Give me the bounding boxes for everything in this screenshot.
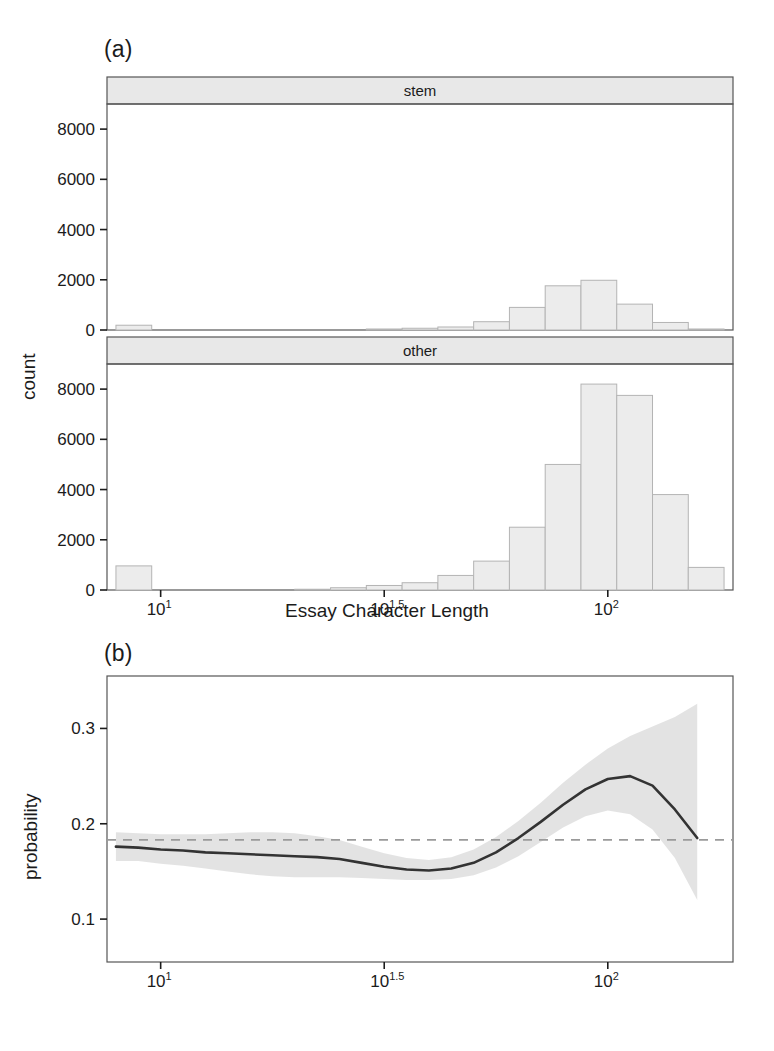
y-tick-label: 0 xyxy=(86,581,95,600)
y-tick-label: 8000 xyxy=(57,120,95,139)
histogram-bar xyxy=(474,322,510,330)
histogram-bar xyxy=(581,280,617,330)
histogram-bar xyxy=(366,329,402,330)
histogram-bar xyxy=(438,327,474,330)
histogram-bar xyxy=(116,566,152,590)
y-tick-label: 0.3 xyxy=(71,719,95,738)
x-tick-label: 102 xyxy=(594,598,619,619)
histogram-bar xyxy=(581,384,617,590)
histogram-bar xyxy=(474,561,510,590)
histogram-bar xyxy=(116,325,152,330)
figure-container: (a) (b) Essay Character Length count pro… xyxy=(0,0,774,1051)
y-tick-label: 0 xyxy=(86,321,95,340)
histogram-bar xyxy=(545,464,581,590)
histogram-bar xyxy=(617,395,653,590)
x-tick-label: 101 xyxy=(147,598,172,619)
plot-canvas: stem02000400060008000other02000400060008… xyxy=(0,0,774,1051)
x-tick-label: 102 xyxy=(594,970,619,991)
y-tick-label: 0.1 xyxy=(71,910,95,929)
y-tick-label: 2000 xyxy=(57,531,95,550)
histogram-bar xyxy=(509,307,545,330)
y-tick-label: 4000 xyxy=(57,481,95,500)
histogram-bar xyxy=(545,286,581,330)
histogram-bar xyxy=(509,527,545,590)
histogram-bar xyxy=(438,575,474,590)
histogram-bar xyxy=(653,495,689,590)
histogram-bar xyxy=(402,583,438,590)
histogram-bar xyxy=(617,304,653,330)
facet-strip-label: other xyxy=(403,342,437,359)
histogram-bar xyxy=(402,328,438,330)
y-tick-label: 6000 xyxy=(57,430,95,449)
facet-strip-label: stem xyxy=(404,82,437,99)
y-tick-label: 0.2 xyxy=(71,815,95,834)
panel-frame-stem xyxy=(107,104,733,330)
histogram-bar xyxy=(688,567,724,590)
histogram-bar xyxy=(295,589,331,590)
x-tick-label: 101.5 xyxy=(370,970,404,991)
y-tick-label: 4000 xyxy=(57,221,95,240)
x-tick-label: 101 xyxy=(147,970,172,991)
x-tick-label: 101.5 xyxy=(370,598,404,619)
histogram-bar xyxy=(653,322,689,330)
histogram-bar xyxy=(366,585,402,590)
y-tick-label: 8000 xyxy=(57,380,95,399)
histogram-bar xyxy=(331,588,367,590)
histogram-bar xyxy=(688,329,724,330)
y-tick-label: 2000 xyxy=(57,271,95,290)
y-tick-label: 6000 xyxy=(57,170,95,189)
